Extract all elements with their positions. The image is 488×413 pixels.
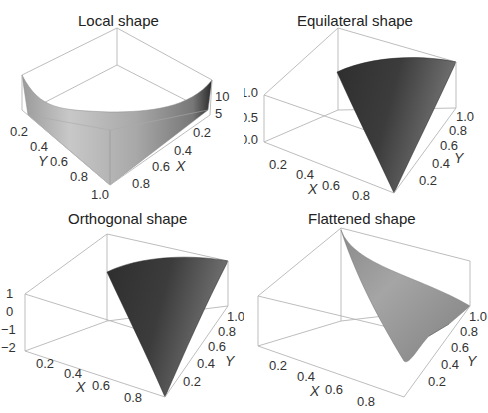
svg-text:0.8: 0.8 [449, 123, 467, 138]
svg-text:Y: Y [454, 150, 465, 166]
svg-text:0.2: 0.2 [269, 358, 287, 373]
svg-text:X: X [309, 383, 320, 399]
panel-equilateral-shape: Equilateral shape 1.0 0.5 0.0 0.2 0.4 0.… [244, 0, 488, 206]
svg-text:1.0: 1.0 [469, 309, 487, 324]
svg-text:Y: Y [225, 353, 236, 369]
svg-text:0.0: 0.0 [244, 132, 258, 147]
svg-text:X: X [307, 181, 318, 197]
svg-text:−2: −2 [1, 340, 16, 355]
svg-text:0.6: 0.6 [322, 178, 340, 193]
svg-text:Y: Y [467, 353, 478, 369]
svg-text:0.4: 0.4 [297, 369, 315, 384]
svg-text:0.4: 0.4 [432, 156, 450, 171]
svg-text:0.4: 0.4 [441, 357, 459, 372]
svg-text:0.5: 0.5 [244, 110, 258, 125]
svg-text:0.6: 0.6 [152, 159, 170, 174]
svg-text:0.2: 0.2 [183, 374, 201, 389]
z-tick: 5 [215, 106, 222, 121]
svg-text:0.2: 0.2 [193, 125, 211, 140]
svg-text:0.8: 0.8 [352, 188, 370, 203]
panel-local-shape: Local shape 10 5 0.2 0.4 0.6 Y 0.8 1.0 [0, 0, 244, 206]
svg-text:0.6: 0.6 [50, 154, 68, 169]
z-tick: 10 [215, 89, 229, 104]
svg-text:0.8: 0.8 [460, 324, 478, 339]
svg-text:X: X [75, 379, 86, 395]
svg-text:0.2: 0.2 [10, 124, 28, 139]
surface-plot-local: 10 5 0.2 0.4 0.6 Y 0.8 1.0 0.2 0.4 0.6 X… [0, 0, 244, 206]
svg-text:0.8: 0.8 [124, 390, 142, 405]
svg-text:1.0: 1.0 [456, 109, 474, 124]
svg-text:0.2: 0.2 [428, 374, 446, 389]
svg-text:0.6: 0.6 [92, 378, 110, 393]
svg-text:Y: Y [38, 153, 49, 169]
surface-plot-orthogonal: 1 0 −1 −2 0.2 0.4 0.6 X 0.8 1.0 0.8 0.6 … [0, 206, 244, 413]
svg-text:0.8: 0.8 [218, 324, 236, 339]
svg-text:0.6: 0.6 [325, 382, 343, 397]
surface-plot-flattened: 0.2 0.4 0.6 X 0.8 1.0 0.8 0.6 0.4 Y 0.2 [244, 206, 488, 413]
svg-text:1.0: 1.0 [227, 309, 244, 324]
panel-orthogonal-shape: Orthogonal shape 1 0 −1 −2 0.2 0.4 0.6 X… [0, 206, 244, 412]
svg-text:0.4: 0.4 [30, 139, 48, 154]
svg-text:0.6: 0.6 [208, 339, 226, 354]
surface-plot-equilateral: 1.0 0.5 0.0 0.2 0.4 0.6 X 0.8 1.0 0.8 0.… [244, 0, 488, 206]
svg-text:0.4: 0.4 [197, 356, 215, 371]
svg-text:0.8: 0.8 [70, 169, 88, 184]
svg-text:0.8: 0.8 [357, 394, 375, 409]
svg-text:1: 1 [6, 286, 13, 301]
svg-text:−1: −1 [1, 322, 16, 337]
svg-text:0.8: 0.8 [132, 176, 150, 191]
svg-text:0: 0 [6, 304, 13, 319]
svg-text:1.0: 1.0 [244, 85, 258, 100]
panel-flattened-shape: Flattened shape 0.2 0.4 0.6 X 0.8 1.0 0.… [244, 206, 488, 412]
svg-text:0.4: 0.4 [296, 167, 314, 182]
svg-text:0.2: 0.2 [419, 173, 437, 188]
svg-text:X: X [175, 158, 186, 174]
svg-text:0.4: 0.4 [174, 143, 192, 158]
svg-text:0.2: 0.2 [36, 356, 54, 371]
svg-text:0.2: 0.2 [269, 157, 287, 172]
svg-text:1.0: 1.0 [91, 187, 109, 202]
